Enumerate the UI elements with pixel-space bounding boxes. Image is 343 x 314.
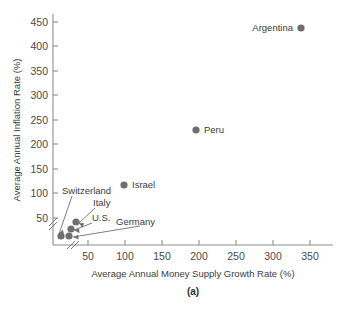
y-tick-label-250: 250: [30, 114, 48, 126]
y-tick-label-450: 450: [30, 16, 48, 28]
data-label-italy: Italy: [93, 197, 111, 208]
scatter-plot-canvas: 450 400 350 300 250 200 150 100 50 50 10…: [0, 0, 343, 314]
y-tick-label-300: 300: [30, 89, 48, 101]
data-label-us: U.S.: [92, 212, 110, 223]
data-point-germany[interactable]: [65, 232, 72, 239]
scatter-plot-figure: 450 400 350 300 250 200 150 100 50 50 10…: [0, 0, 343, 314]
data-point-argentina[interactable]: [297, 24, 304, 31]
x-tick-label-150: 150: [153, 250, 171, 262]
y-axis-title: Average Annual Inflation Rate (%): [11, 59, 22, 202]
x-tick-label-250: 250: [227, 250, 245, 262]
y-tick-label-400: 400: [30, 40, 48, 52]
y-tick-label-150: 150: [30, 163, 48, 175]
data-point-labels: Argentina Peru Israel Switzerland Italy …: [62, 22, 294, 227]
y-axis-ticks: [53, 22, 58, 218]
x-tick-label-350: 350: [301, 250, 319, 262]
data-point-italy[interactable]: [72, 218, 79, 225]
x-tick-label-300: 300: [264, 250, 282, 262]
data-label-israel: Israel: [132, 179, 155, 190]
y-axis-tick-labels: 450 400 350 300 250 200 150 100 50: [30, 16, 48, 224]
data-label-argentina: Argentina: [252, 22, 293, 33]
x-tick-label-100: 100: [116, 250, 134, 262]
y-tick-label-50: 50: [36, 212, 48, 224]
data-point-peru[interactable]: [192, 126, 199, 133]
y-tick-label-350: 350: [30, 65, 48, 77]
x-tick-label-50: 50: [82, 250, 94, 262]
data-label-switzerland: Switzerland: [62, 185, 111, 196]
data-point-us[interactable]: [67, 225, 74, 232]
x-axis-tick-labels: 50 100 150 200 250 300 350: [82, 250, 319, 262]
leader-line-germany: [73, 226, 140, 237]
x-axis-title: Average Annual Money Supply Growth Rate …: [91, 268, 294, 279]
data-point-switzerland[interactable]: [57, 232, 64, 239]
data-point-israel[interactable]: [120, 181, 127, 188]
data-label-germany: Germany: [116, 216, 155, 227]
x-tick-label-200: 200: [190, 250, 208, 262]
data-label-peru: Peru: [204, 124, 224, 135]
figure-caption: (a): [187, 286, 199, 297]
x-axis-ticks: [88, 240, 310, 245]
arrowhead-germany: [73, 235, 79, 240]
y-tick-label-200: 200: [30, 138, 48, 150]
y-tick-label-100: 100: [30, 187, 48, 199]
